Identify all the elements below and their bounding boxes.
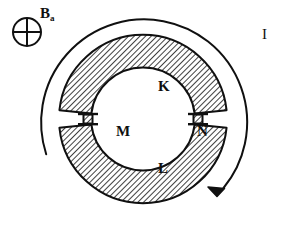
gap-label-m: M [116,124,130,139]
gap-bridge-left [78,114,98,124]
field-label-base: B [40,5,50,21]
current-direction-arrowhead [208,187,225,197]
diagram-canvas [0,0,292,244]
physics-diagram: Ba I K L M N [0,0,292,244]
field-label-subscript: a [50,13,55,23]
region-label-k: K [158,79,170,94]
circle-cross-into-page-icon [13,18,41,46]
current-label: I [262,27,267,42]
field-label: Ba [40,6,55,21]
region-label-l: L [158,161,168,176]
gap-bridge-left-body [84,115,93,124]
gap-label-n: N [197,124,208,139]
